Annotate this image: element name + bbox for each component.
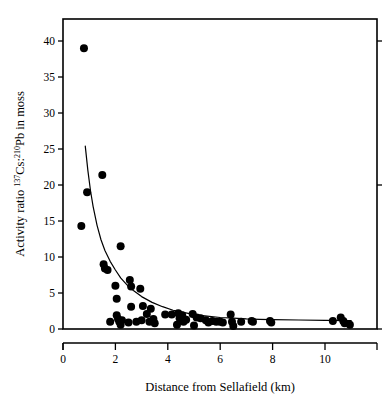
data-point [127, 303, 135, 311]
y-tick-label: 30 [44, 107, 56, 119]
data-point [182, 316, 190, 324]
y-tick-label: 35 [44, 71, 56, 83]
data-point [346, 321, 354, 329]
y-tick-label: 0 [49, 323, 55, 335]
data-point [104, 266, 112, 274]
data-point [237, 318, 245, 326]
data-point [80, 44, 88, 52]
data-point [190, 321, 198, 329]
y-axis-title: Activity ratio 137Cs:210Pb in moss [13, 91, 27, 257]
x-tick-label: 10 [319, 353, 331, 365]
data-point [151, 319, 159, 327]
data-point [111, 282, 119, 290]
y-title-lead: Activity ratio [13, 187, 27, 257]
y-axis: 0510152025303540 [44, 35, 64, 335]
data-point [227, 311, 235, 319]
data-point [139, 302, 147, 310]
data-point [83, 188, 91, 196]
y-tick-label: 40 [44, 35, 56, 47]
y-title-sup-cs: 137 [13, 175, 22, 187]
data-point [127, 283, 135, 291]
y-tick-label: 25 [44, 143, 56, 155]
data-point [329, 317, 337, 325]
x-axis: 0246810 [60, 343, 377, 365]
data-point [98, 171, 106, 179]
y-title-pb: Pb in moss [13, 91, 27, 146]
y-tick-label: 20 [44, 179, 56, 191]
y-title-cs: Cs: [13, 158, 27, 175]
data-point [229, 322, 237, 330]
data-point [267, 319, 275, 327]
scatter-plot: 05101520253035400246810Distance from Sel… [0, 0, 388, 404]
x-tick-label: 6 [217, 353, 223, 365]
figure-container: 05101520253035400246810Distance from Sel… [0, 0, 388, 404]
x-tick-label: 2 [113, 353, 119, 365]
plot-frame [63, 19, 377, 329]
data-point [77, 222, 85, 230]
data-point [219, 319, 227, 327]
x-tick-label: 0 [60, 353, 66, 365]
x-axis-title: Distance from Sellafield (km) [145, 380, 295, 394]
data-point [136, 285, 144, 293]
data-points [77, 44, 354, 330]
data-point [117, 242, 125, 250]
data-point [106, 318, 114, 326]
y-title-sup-pb: 210 [13, 146, 22, 158]
y-tick-label: 10 [44, 251, 56, 263]
y-tick-label: 5 [49, 287, 55, 299]
data-point [249, 318, 257, 326]
data-point [125, 319, 133, 327]
x-tick-label: 4 [165, 353, 171, 365]
x-tick-label: 8 [270, 353, 276, 365]
data-point [143, 310, 151, 318]
fit-curve [85, 146, 351, 321]
data-point [113, 295, 121, 303]
data-point [138, 316, 146, 324]
y-tick-label: 15 [44, 215, 56, 227]
